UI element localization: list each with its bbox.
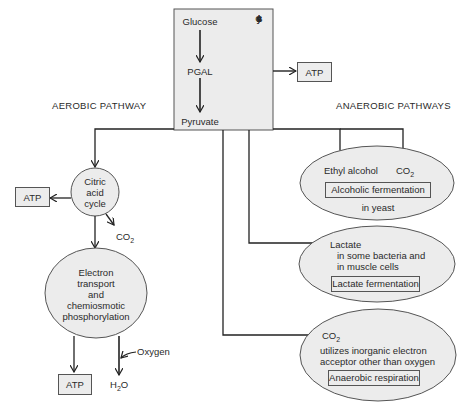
co2-subscript: 2 (130, 237, 134, 244)
aerobic-heading: AEROBIC PATHWAY (52, 100, 146, 111)
oxygen-arrow (121, 352, 136, 358)
alcoholic-co2-label: CO2 (396, 165, 414, 180)
alcoholic-note: in yeast (340, 202, 416, 213)
water-o: O (121, 379, 128, 390)
citric-atp-box: ATP (15, 187, 50, 207)
citric-co2-label: CO2 (116, 231, 134, 246)
pyruvate-label: Pyruvate (176, 116, 224, 127)
anaerobic-heading: ANAEROBIC PATHWAYS (336, 100, 451, 111)
lactate-label: Lactate (330, 239, 361, 250)
water-label: H2O (110, 379, 128, 394)
pgal-label: PGAL (178, 66, 222, 77)
respiration-co2-label: CO2 (322, 330, 340, 345)
co2-subscript: 2 (410, 171, 414, 178)
electron-atp-box: ATP (58, 374, 92, 395)
oxygen-label: Oxygen (137, 346, 170, 357)
anaerobic-respiration-title: Anaerobic respiration (328, 370, 420, 386)
ethyl-alcohol-label: Ethyl alcohol (324, 165, 378, 176)
citric-line-2: acid (75, 187, 115, 198)
pyruvate-to-citric-arrow (95, 129, 174, 167)
electron-line-3: and (46, 289, 146, 300)
alcoholic-fermentation-title: Alcoholic fermentation (325, 182, 431, 198)
glycolysis-letter: s (254, 13, 264, 25)
electron-line-2: transport (46, 278, 146, 289)
co2-subscript: 2 (336, 336, 340, 343)
citric-line-1: Citric (75, 176, 115, 187)
glucose-label: Glucose (178, 16, 222, 27)
electron-line-4: chemiosmotic (46, 300, 146, 311)
citric-to-co2-arrow (106, 214, 114, 225)
lactate-fermentation-title: Lactate fermentation (331, 276, 420, 292)
co2-text: CO (322, 330, 336, 341)
respiration-note-1: utilizes inorganic electron (320, 345, 427, 356)
lactate-note-2: in muscle cells (337, 261, 399, 272)
co2-text: CO (116, 231, 130, 242)
co2-text: CO (396, 165, 410, 176)
water-h: H (110, 379, 117, 390)
electron-line-5: phosphorylation (46, 311, 146, 322)
glycolysis-atp-box: ATP (297, 62, 332, 82)
citric-line-3: cycle (75, 198, 115, 209)
respiration-note-2: acceptor other than oxygen (320, 356, 435, 367)
pyruvate-to-respiration-arrow (223, 130, 318, 335)
electron-line-1: Electron (46, 267, 146, 278)
lactate-note-1: in some bacteria and (337, 250, 425, 261)
